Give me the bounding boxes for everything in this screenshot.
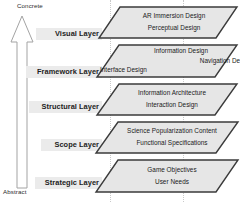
layer-label-strategic: Strategic Layer — [35, 177, 102, 189]
layer-plate-scope: Science Popularization Content Functiona… — [95, 121, 239, 154]
layer-plate-structural: Information Architecture Interaction Des… — [96, 83, 238, 116]
layer-label-visual: Visual Layer — [36, 28, 102, 40]
layer-label-structural: Structural Layer — [29, 101, 102, 113]
layer-label-framework: Framework Layer — [26, 66, 102, 78]
axis-label-concrete: Concrete — [17, 2, 43, 9]
layer-plate-strategic: Game Objectives User Needs — [95, 159, 239, 193]
diagram-canvas: Concrete Abstract Visual Layer Framework… — [0, 0, 240, 202]
layer-label-scope: Scope Layer — [41, 139, 102, 151]
layer-plate-framework: Information Design Navigation Design Int… — [96, 44, 238, 78]
layer-plate-visual: AR Immersion Design Perceptual Design — [98, 6, 238, 39]
